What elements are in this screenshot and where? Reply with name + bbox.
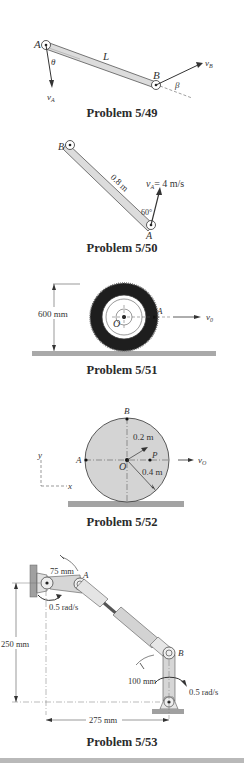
ground xyxy=(32,351,216,356)
label-inner-radius: 0.2 m xyxy=(133,432,154,442)
point-a-marker xyxy=(152,315,155,318)
caption-5-53: Problem 5/53 xyxy=(0,735,244,750)
label-beta: β xyxy=(174,80,180,90)
figure-problem-5-51: 600 mm O A v0 Problem 5/51 xyxy=(0,265,244,390)
diagram-5-49: A L θ B β vA vB xyxy=(0,0,244,110)
label-a: A xyxy=(145,230,153,241)
label-va: vA xyxy=(47,92,55,103)
label-p: P xyxy=(151,450,158,460)
label-height: 600 mm xyxy=(38,309,68,319)
caption-5-50: Problem 5/50 xyxy=(0,241,244,256)
label-omega-top: 0.5 rad/s xyxy=(49,602,78,612)
coordinate-axes: y x xyxy=(37,450,72,491)
label-b: B xyxy=(178,648,184,658)
caption-5-52: Problem 5/52 xyxy=(0,515,244,530)
diagram-5-52: B A O P 0.2 m 0.4 m vO y x xyxy=(0,390,244,510)
wall-mount xyxy=(30,565,37,597)
label-velocity: vO xyxy=(198,455,207,466)
figure-problem-5-50: B 0.8 m 60° A vA= 4 m/s Problem 5/50 xyxy=(0,135,244,265)
point-a-marker xyxy=(84,458,87,461)
label-omega-bottom: 0.5 rad/s xyxy=(189,687,218,697)
label-b: B xyxy=(124,406,130,416)
label-length: L xyxy=(102,50,109,62)
link-ab xyxy=(43,41,156,88)
label-b: B xyxy=(58,141,64,152)
figure-problem-5-49: A L θ B β vA vB Problem 5/49 xyxy=(0,0,244,130)
label-lower-link: 100 mm xyxy=(128,676,156,686)
diagram-5-51: 600 mm O A v0 xyxy=(0,265,244,365)
label-b: B xyxy=(153,69,160,81)
label-crank-length: 75 mm xyxy=(50,566,74,576)
label-axis-y: y xyxy=(37,450,42,460)
label-center: O xyxy=(119,461,126,472)
label-theta: θ xyxy=(51,57,56,67)
label-a: A xyxy=(33,38,41,50)
bar-ab xyxy=(63,143,154,231)
figure-problem-5-53: 250 mm 275 mm 75 mm A B 0.5 rad/s 100 mm… xyxy=(0,535,244,759)
label-a: A xyxy=(82,570,89,580)
label-a: A xyxy=(75,455,82,465)
label-horizontal-dim: 275 mm xyxy=(89,715,117,725)
diagram-5-53: 250 mm 275 mm 75 mm A B 0.5 rad/s 100 mm… xyxy=(0,535,244,735)
label-vb: vB xyxy=(205,58,213,69)
caption-5-51: Problem 5/51 xyxy=(0,363,244,378)
label-velocity: vA= 4 m/s xyxy=(146,178,184,190)
label-outer-radius: 0.4 m xyxy=(142,467,163,477)
page-divider xyxy=(0,758,244,763)
label-a: A xyxy=(156,306,163,316)
point-b-marker xyxy=(125,417,128,420)
label-velocity: v0 xyxy=(206,312,213,323)
label-vertical-dim: 250 mm xyxy=(1,639,29,649)
pin-b-icon xyxy=(163,647,175,659)
wheel xyxy=(90,283,172,351)
caption-5-49: Problem 5/49 xyxy=(0,106,244,121)
diagram-5-50: B 0.8 m 60° A vA= 4 m/s xyxy=(0,135,244,245)
figure-problem-5-52: B A O P 0.2 m 0.4 m vO y x Problem 5/52 xyxy=(0,390,244,535)
ground-mount xyxy=(152,709,184,714)
label-angle: 60° xyxy=(141,208,152,217)
label-axis-x: x xyxy=(67,481,72,491)
rotation-arrow-bottom-icon xyxy=(181,680,187,687)
label-center: O xyxy=(113,318,120,329)
